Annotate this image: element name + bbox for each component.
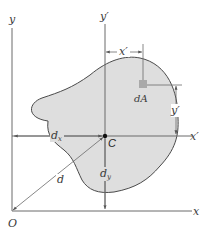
y-prime-axis-label: y′ [99,10,109,23]
parallel-axis-diagram: y x O y′ x′ C dA x′ y′ dx dy d [0,0,210,233]
x-prime-dimension-label: x′ [119,45,128,58]
x-prime-axis-label: x′ [190,130,199,143]
d-label: d [57,173,64,186]
origin-label: O [8,217,17,230]
y-axis-label: y [8,13,16,26]
y-prime-dimension-label: y′ [170,104,180,117]
dA-label: dA [134,93,148,104]
centroid-label: C [108,137,116,149]
area-element-dA [139,80,147,88]
x-axis-label: x [193,205,200,218]
centroid-point [103,134,107,138]
